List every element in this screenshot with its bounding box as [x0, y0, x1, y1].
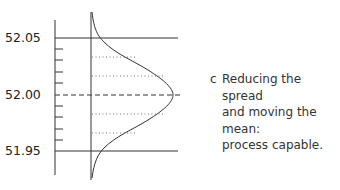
caption-line-3: process capable. [222, 137, 340, 154]
tick-label-upper: 52.05 [5, 30, 41, 45]
tick-label-mean: 52.00 [5, 87, 41, 102]
caption: c Reducing the spread and moving the mea… [222, 71, 340, 154]
tick-label-lower: 51.95 [5, 143, 41, 158]
caption-line-2: and moving the mean: [222, 104, 340, 137]
caption-letter: c [210, 71, 217, 88]
caption-line-1: Reducing the spread [222, 71, 340, 104]
